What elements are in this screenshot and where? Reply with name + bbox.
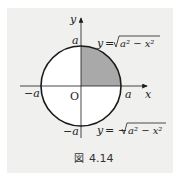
figure-caption: 図 4.14 [74,152,114,165]
y-axis-label: y [69,13,77,26]
svg-text:a² − x²: a² − x² [128,125,162,136]
svg-text:y: y [96,37,104,50]
caption-symbol: 図 [74,153,84,164]
upper-semicircle-equation: y = a² − x² [96,36,160,50]
svg-text:=: = [105,37,114,50]
lower-semicircle-equation: y = − a² − x² [96,123,166,137]
label-bottom-neg-a: −a [63,125,79,138]
label-right-a: a [125,88,132,101]
label-left-neg-a: −a [24,87,40,100]
label-top-a: a [72,34,79,47]
caption-number: 4.14 [89,152,114,165]
x-axis-label: x [145,88,152,101]
svg-text:= −: = − [105,124,127,137]
circle-diagram: y x O a a −a −a y = a² − x² y = − a² − x… [0,0,186,183]
svg-text:y: y [96,124,104,137]
svg-text:a² − x²: a² − x² [120,38,154,49]
origin-label: O [70,90,79,103]
